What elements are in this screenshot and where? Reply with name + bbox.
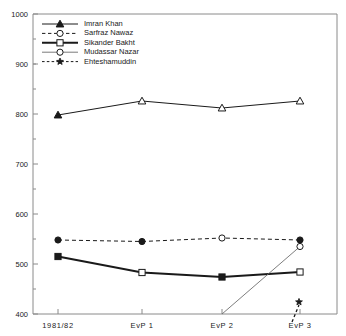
legend-entry-ehteshamuddin[interactable]: Ehteshamuddin: [42, 57, 136, 66]
data-point-sarfraz-nawaz-2: [219, 235, 225, 241]
y-axis-ticks: [33, 14, 38, 314]
legend-entry-sikander-bakht[interactable]: Sikander Bakht: [42, 38, 136, 47]
series-mudassar-nazar: [222, 243, 303, 314]
chart-plot: 1000 900 800 700 600 500 400 1981/82 EvP…: [0, 0, 346, 336]
x-tick-label-3: EvP 3: [289, 321, 312, 330]
legend-label-2: Sikander Bakht: [84, 38, 136, 47]
legend-entry-mudassar-nazar[interactable]: Mudassar Nazar: [42, 47, 140, 56]
data-point-sikander-bakht-2: [219, 274, 225, 280]
y-tick-label-700: 700: [15, 160, 28, 169]
chart-legend: Imran KhanSarfraz NawazSikander BakhtMud…: [42, 19, 140, 66]
data-series-layer: [54, 97, 304, 322]
data-point-imran-khan-1: [138, 97, 146, 104]
data-point-sarfraz-nawaz-0: [55, 237, 61, 243]
legend-label-3: Mudassar Nazar: [84, 47, 140, 56]
legend-marker-star-icon: [57, 58, 64, 65]
legend-label-0: Imran Khan: [84, 19, 123, 28]
series-ehteshamuddin: [292, 298, 302, 322]
series-imran-khan: [54, 97, 304, 118]
data-point-imran-khan-3: [296, 97, 304, 104]
y-tick-label-500: 500: [15, 260, 28, 269]
data-point-sikander-bakht-1: [139, 269, 145, 275]
series-line-imran-khan: [58, 101, 300, 115]
plot-frame: [33, 14, 337, 314]
chart-container: 1000 900 800 700 600 500 400 1981/82 EvP…: [0, 0, 346, 336]
legend-label-1: Sarfraz Nawaz: [84, 28, 133, 37]
x-tick-label-0: 1981/82: [42, 321, 73, 330]
data-point-sarfraz-nawaz-3: [297, 237, 303, 243]
data-point-ehteshamuddin-evp3: [296, 298, 303, 305]
data-point-sarfraz-nawaz-1: [139, 238, 145, 244]
y-tick-label-900: 900: [15, 60, 28, 69]
y-tick-label-600: 600: [15, 210, 28, 219]
series-sarfraz-nawaz: [55, 235, 303, 245]
y-tick-label-1000: 1000: [11, 10, 28, 19]
data-point-mudassar-nazar-3: [297, 243, 303, 249]
y-tick-label-400: 400: [15, 310, 28, 319]
data-point-sikander-bakht-0: [55, 253, 61, 259]
x-axis-ticks: [58, 309, 300, 314]
x-tick-label-1: EvP 1: [131, 321, 154, 330]
y-tick-label-800: 800: [15, 110, 28, 119]
series-line-sarfraz-nawaz: [58, 238, 300, 242]
series-line-sikander-bakht: [58, 257, 300, 278]
legend-entry-sarfraz-nawaz[interactable]: Sarfraz Nawaz: [42, 28, 133, 37]
legend-label-4: Ehteshamuddin: [84, 57, 136, 66]
legend-marker-square-icon: [57, 40, 63, 46]
legend-entry-imran-khan[interactable]: Imran Khan: [42, 19, 123, 28]
series-line-mudassar-nazar: [222, 247, 300, 315]
data-point-sikander-bakht-3: [297, 269, 303, 275]
x-tick-label-2: EvP 2: [211, 321, 234, 330]
legend-marker-circle-icon: [57, 30, 63, 36]
legend-marker-circle-icon: [57, 49, 63, 55]
